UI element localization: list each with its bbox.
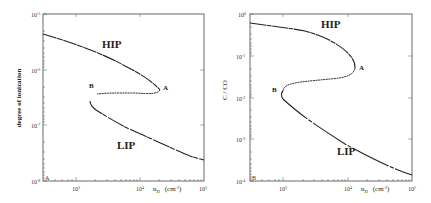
figure: 10-5 10-6 10-7 10-8 103 104 105 nH(cm-3)… [0,0,431,203]
middle-branch-curve [283,68,355,91]
plot-frame [43,14,204,181]
y-ticks [43,14,204,181]
y-tick-label: 10-6 [31,67,40,74]
x-tick-label: 105 [199,185,207,192]
point-a-label: A [359,64,364,72]
x-tick-label: 105 [408,185,416,192]
middle-branch-curve [97,90,160,94]
x-axis-label: nH(cm-3) [153,185,182,194]
y-tick-label: 10-8 [31,178,40,185]
x-tick-label: 103 [279,185,287,192]
y-tick-label: 10-7 [31,122,40,129]
x-ticks [55,14,201,181]
point-a-label: A [163,84,168,92]
lip-branch-curve [282,91,413,175]
y-tick-label: 100 [238,11,246,18]
hip-label: HIP [102,38,122,50]
x-axis-label: nH(cm-3) [361,185,390,194]
x-tick-label: 104 [344,185,352,192]
point-b-label: B [89,82,94,90]
y-tick-label: 10-1 [236,53,245,60]
panel-a: 10-5 10-6 10-7 10-8 103 104 105 nH(cm-3)… [15,11,207,194]
y-axis-label: degree of ionization [15,69,23,128]
panel-tag: A [45,175,50,181]
lip-label: LIP [337,145,356,157]
x-tick-label: 104 [136,185,144,192]
lip-branch-curve [90,101,204,160]
y-ticks [250,14,412,181]
panel-b: 100 10-1 10-2 10-3 10-4 103 104 105 nH(c… [221,11,416,194]
panel-tag: B [252,175,256,181]
y-axis-label: C / CO [221,80,229,100]
lip-label: LIP [117,139,136,151]
y-tick-label: 10-3 [236,136,245,143]
hip-label: HIP [321,18,341,30]
x-tick-label: 103 [72,185,80,192]
x-ticks [262,14,409,181]
plot-frame [250,14,412,181]
y-tick-label: 10-2 [236,95,245,102]
y-tick-label: 10-5 [31,11,40,18]
point-b-label: B [272,86,277,94]
y-tick-label: 10-4 [236,178,245,185]
